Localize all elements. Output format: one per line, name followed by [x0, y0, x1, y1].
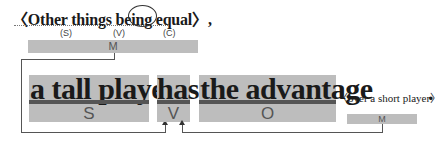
comma: , — [208, 11, 212, 28]
verb-role: V — [157, 104, 190, 124]
role-c-label: (C) — [163, 28, 176, 38]
sentence-period: . — [428, 80, 434, 106]
connector-line — [21, 59, 115, 60]
participial-phrase: 〈Other things being equal〉, — [12, 6, 212, 30]
subject-role: S — [29, 104, 149, 124]
ing-circle-annotation — [128, 5, 157, 27]
connector-line — [21, 132, 165, 133]
connector-line — [182, 124, 183, 133]
close-bracket: 〉 — [192, 11, 208, 28]
role-s-label: (S) — [60, 28, 72, 38]
modifier-text: 〈over a short player〉 — [337, 89, 441, 105]
connector-line — [182, 132, 383, 133]
object-role: O — [199, 104, 336, 124]
connector-line — [165, 124, 166, 133]
arrow-up-icon — [179, 120, 185, 125]
connector-line — [21, 59, 22, 132]
role-v-label: (V) — [113, 28, 125, 38]
modifier-bar-top: M — [28, 40, 198, 53]
modifier-bar-bottom: M — [347, 114, 417, 124]
